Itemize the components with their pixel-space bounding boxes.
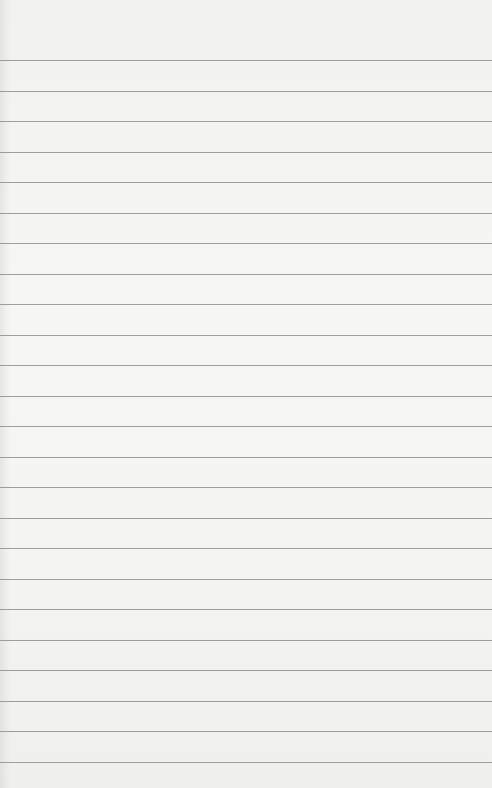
ruled-line (0, 548, 492, 549)
ruled-line (0, 365, 492, 366)
ruled-line (0, 731, 492, 732)
ruled-line (0, 91, 492, 92)
ruled-line (0, 60, 492, 61)
ruled-line (0, 152, 492, 153)
ruled-line (0, 121, 492, 122)
ruled-line (0, 670, 492, 671)
ruled-line (0, 701, 492, 702)
ruled-line (0, 640, 492, 641)
ruled-line (0, 335, 492, 336)
ruled-line (0, 457, 492, 458)
ruled-line (0, 609, 492, 610)
ruled-line (0, 426, 492, 427)
ruled-line (0, 518, 492, 519)
ruled-line (0, 304, 492, 305)
ruled-line (0, 213, 492, 214)
ruled-line (0, 182, 492, 183)
ruled-line (0, 274, 492, 275)
ruled-line (0, 396, 492, 397)
ruled-line (0, 762, 492, 763)
ruled-line (0, 579, 492, 580)
ruled-line (0, 243, 492, 244)
lined-paper (0, 0, 492, 788)
ruled-line (0, 487, 492, 488)
